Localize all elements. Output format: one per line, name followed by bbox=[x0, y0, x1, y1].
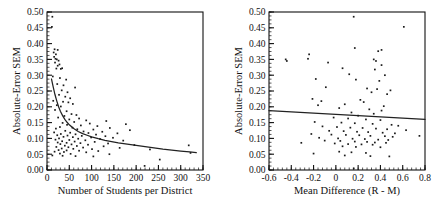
x-tick-label: 0.2 bbox=[352, 173, 364, 183]
data-point bbox=[380, 119, 382, 121]
data-point bbox=[82, 147, 84, 149]
data-point bbox=[405, 129, 407, 131]
data-point bbox=[351, 112, 353, 114]
data-point bbox=[347, 143, 349, 145]
plot-frame bbox=[47, 12, 203, 170]
data-point bbox=[95, 134, 97, 136]
y-tick-label: 0.25 bbox=[249, 86, 266, 96]
data-point bbox=[345, 134, 347, 136]
data-point bbox=[57, 142, 59, 144]
data-point bbox=[59, 64, 61, 66]
data-point bbox=[69, 97, 71, 99]
panel-right-scatter: -0.6-0.4-0.200.20.40.60.80.000.050.100.1… bbox=[221, 0, 442, 212]
data-point bbox=[56, 134, 58, 136]
data-point bbox=[68, 102, 70, 104]
x-tick-label: 100 bbox=[84, 173, 99, 183]
data-point bbox=[57, 117, 59, 119]
data-point bbox=[53, 52, 55, 54]
data-point bbox=[328, 130, 330, 132]
data-point bbox=[75, 155, 77, 157]
data-point bbox=[392, 136, 394, 138]
data-point bbox=[80, 125, 82, 127]
data-point bbox=[375, 128, 377, 130]
data-point bbox=[66, 110, 68, 112]
data-point bbox=[394, 132, 396, 134]
data-point bbox=[314, 121, 316, 123]
y-tick-label: 0.25 bbox=[27, 86, 44, 96]
y-tick-label: 0.15 bbox=[249, 118, 266, 128]
data-point bbox=[312, 98, 314, 100]
data-point bbox=[354, 47, 356, 49]
data-point bbox=[322, 126, 324, 128]
y-tick-label: 0.45 bbox=[249, 23, 266, 33]
data-point bbox=[73, 121, 75, 123]
data-point bbox=[355, 79, 357, 81]
data-point bbox=[354, 122, 356, 124]
data-point bbox=[384, 74, 386, 76]
data-point bbox=[61, 90, 63, 92]
data-point bbox=[60, 133, 62, 135]
data-point bbox=[384, 135, 386, 137]
data-point bbox=[387, 139, 389, 141]
panel-left-scatter: 0501001502002503003500.000.050.100.150.2… bbox=[0, 0, 221, 212]
data-point bbox=[327, 62, 329, 64]
data-point bbox=[94, 141, 96, 143]
y-tick-label: 0.15 bbox=[27, 118, 44, 128]
data-point bbox=[321, 100, 323, 102]
y-tick-label: 0.40 bbox=[249, 39, 266, 49]
data-point bbox=[58, 94, 60, 96]
data-point bbox=[388, 156, 390, 158]
data-point bbox=[315, 78, 317, 80]
data-point bbox=[76, 128, 78, 130]
data-point bbox=[352, 138, 354, 140]
data-point bbox=[391, 124, 393, 126]
data-point bbox=[68, 139, 70, 141]
data-point bbox=[89, 123, 91, 125]
data-point bbox=[87, 144, 89, 146]
data-point bbox=[66, 124, 68, 126]
data-point bbox=[334, 143, 336, 145]
data-point bbox=[55, 53, 57, 55]
data-point bbox=[355, 146, 357, 148]
data-point bbox=[57, 65, 59, 67]
data-point bbox=[286, 60, 288, 62]
data-point bbox=[52, 16, 54, 18]
data-point bbox=[381, 110, 383, 112]
data-point bbox=[390, 90, 392, 92]
data-point bbox=[358, 134, 360, 136]
data-point bbox=[55, 128, 57, 130]
data-point bbox=[333, 117, 335, 119]
y-tick-label: 0.05 bbox=[27, 150, 44, 160]
data-point bbox=[105, 120, 107, 122]
y-tick-label: 0.10 bbox=[27, 134, 44, 144]
data-point bbox=[66, 142, 68, 144]
data-point bbox=[370, 135, 372, 137]
y-tick-label: 0.10 bbox=[249, 134, 266, 144]
data-point bbox=[338, 151, 340, 153]
data-point bbox=[354, 141, 356, 143]
data-point bbox=[59, 126, 61, 128]
data-point bbox=[60, 106, 62, 108]
data-point bbox=[361, 144, 363, 146]
data-point bbox=[105, 135, 107, 137]
data-point bbox=[69, 132, 71, 134]
data-point bbox=[403, 26, 405, 28]
data-point bbox=[377, 50, 379, 52]
data-point bbox=[397, 125, 399, 127]
x-tick-label: 50 bbox=[65, 173, 75, 183]
regression-line bbox=[269, 111, 425, 120]
data-point bbox=[377, 139, 379, 141]
data-point bbox=[125, 123, 127, 125]
data-point bbox=[385, 142, 387, 144]
x-tick-label: 200 bbox=[129, 173, 144, 183]
data-point bbox=[85, 151, 87, 153]
data-point bbox=[122, 140, 124, 142]
data-point bbox=[63, 151, 65, 153]
data-point bbox=[56, 146, 58, 148]
data-point bbox=[56, 104, 58, 106]
data-point bbox=[101, 131, 103, 133]
plot-frame bbox=[269, 12, 425, 170]
data-point bbox=[349, 127, 351, 129]
y-tick-label: 0.35 bbox=[249, 55, 266, 65]
data-point bbox=[56, 83, 58, 85]
